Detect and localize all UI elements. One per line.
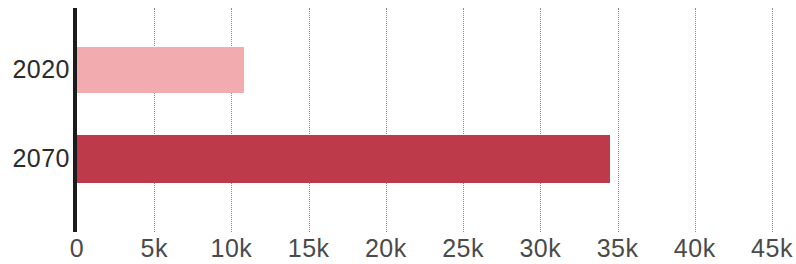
bars-layer: 2020 2070 (0, 0, 796, 232)
category-label-2020: 2020 (12, 55, 70, 84)
bar-row: 2070 (0, 135, 796, 183)
x-tick-label: 25k (442, 234, 484, 263)
x-tick-label: 40k (674, 234, 716, 263)
x-tick-label: 20k (365, 234, 407, 263)
bar-row: 2020 (0, 47, 796, 93)
category-label-2070: 2070 (12, 144, 70, 173)
x-tick-label: 0 (70, 234, 84, 263)
x-tick-label: 30k (519, 234, 561, 263)
y-axis-line (73, 8, 77, 232)
bar-2070 (77, 135, 610, 183)
x-tick-label: 45k (751, 234, 793, 263)
x-tick-label: 10k (211, 234, 253, 263)
bar-chart: 2020 2070 0 5k 10k 15k 20k 25k 30k 35k 4… (0, 0, 796, 264)
x-tick-label: 35k (597, 234, 639, 263)
bar-2020 (77, 47, 244, 93)
x-tick-label: 5k (141, 234, 168, 263)
x-axis-tick-labels: 0 5k 10k 15k 20k 25k 30k 35k 40k 45k (0, 234, 796, 264)
x-tick-label: 15k (288, 234, 330, 263)
